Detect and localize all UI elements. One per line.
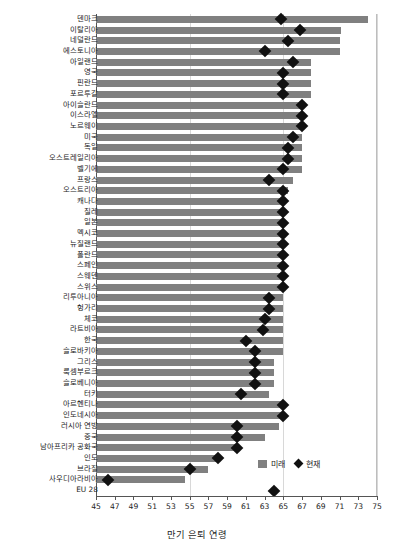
- chart-row: [96, 303, 377, 314]
- category-label: 체코: [84, 315, 98, 323]
- category-label: 아이슬란드: [63, 101, 98, 109]
- category-label: 그리스: [77, 358, 98, 366]
- chart-row: [96, 292, 377, 303]
- legend: 미래 현재: [258, 458, 320, 469]
- chart-row: [96, 325, 377, 336]
- category-label: 영국: [84, 68, 98, 76]
- bar-future: [96, 134, 302, 141]
- chart-row: [96, 378, 377, 389]
- category-label: 중국: [84, 433, 98, 441]
- chart-row: [96, 100, 377, 111]
- x-tick-label: 73: [348, 502, 368, 511]
- x-tick-label: 51: [142, 502, 162, 511]
- chart-row: [96, 346, 377, 357]
- chart-row: [96, 207, 377, 218]
- bar-future: [96, 102, 302, 109]
- chart-row: [96, 271, 377, 282]
- bar-future: [96, 166, 302, 173]
- category-label: 슬로바키아: [63, 347, 98, 355]
- x-tick-label: 69: [311, 502, 331, 511]
- bar-future: [96, 423, 279, 430]
- category-label: 핀란드: [77, 79, 98, 87]
- x-tick-label: 71: [330, 502, 350, 511]
- bar-future: [96, 455, 218, 462]
- category-label: 리투아니아: [63, 293, 98, 301]
- chart-row: [96, 78, 377, 89]
- x-tick: [115, 496, 116, 500]
- chart-row: [96, 282, 377, 293]
- x-tick-label: 57: [198, 502, 218, 511]
- category-label: 인도: [84, 454, 98, 462]
- category-label: 라트비아: [70, 325, 98, 333]
- bar-future: [96, 198, 283, 205]
- chart-row: [96, 260, 377, 271]
- chart-row: [96, 68, 377, 79]
- bar-future: [96, 16, 368, 23]
- bar-future: [96, 144, 302, 151]
- chart-row: [96, 110, 377, 121]
- category-label: 스페인: [77, 261, 98, 269]
- x-tick: [246, 496, 247, 500]
- bar-future: [96, 219, 283, 226]
- x-tick: [283, 496, 284, 500]
- bar-future: [96, 59, 311, 66]
- x-tick: [358, 496, 359, 500]
- category-label: 캐나다: [77, 197, 98, 205]
- category-label: 오스트리아: [63, 186, 98, 194]
- x-tick: [265, 496, 266, 500]
- x-tick-label: 45: [86, 502, 106, 511]
- x-tick: [208, 496, 209, 500]
- x-tick-label: 59: [217, 502, 237, 511]
- diamond-swatch-icon: [294, 459, 304, 469]
- x-tick-label: 67: [292, 502, 312, 511]
- category-label: 아르헨티나: [63, 400, 98, 408]
- chart-row: [96, 400, 377, 411]
- category-label: EU 28: [76, 486, 98, 494]
- category-label: 멕시코: [77, 229, 98, 237]
- bar-future: [96, 241, 283, 248]
- category-label: 아일랜드: [70, 58, 98, 66]
- chart-row: [96, 453, 377, 464]
- bar-future: [96, 369, 274, 376]
- legend-entry-current: 현재: [295, 458, 320, 469]
- chart-row: [96, 35, 377, 46]
- bar-future: [96, 251, 283, 258]
- x-tick: [321, 496, 322, 500]
- bar-future: [96, 401, 283, 408]
- chart-row: [96, 239, 377, 250]
- category-label: 남아프리카 공화국: [40, 443, 98, 451]
- x-tick: [190, 496, 191, 500]
- category-label: 터키: [84, 390, 98, 398]
- category-label: 에스토니아: [63, 47, 98, 55]
- x-tick: [302, 496, 303, 500]
- chart-row: [96, 228, 377, 239]
- bar-future: [96, 155, 302, 162]
- chart-row: [96, 164, 377, 175]
- bar-future: [96, 230, 283, 237]
- chart-row: [96, 464, 377, 475]
- category-label: 룩셈부르크: [63, 368, 98, 376]
- chart-row: [96, 314, 377, 325]
- chart-row: [96, 25, 377, 36]
- x-tick-label: 75: [367, 502, 387, 511]
- chart-row: [96, 185, 377, 196]
- category-label: 한국: [84, 336, 98, 344]
- category-label: 스웨덴: [77, 272, 98, 280]
- x-tick: [133, 496, 134, 500]
- category-label: 벨기에: [77, 165, 98, 173]
- bar-future: [96, 262, 283, 269]
- chart-row: [96, 14, 377, 25]
- category-label: 이스라엘: [70, 111, 98, 119]
- chart-row: [96, 175, 377, 186]
- chart-row: [96, 196, 377, 207]
- legend-label-current: 현재: [306, 458, 320, 469]
- category-label: 스위스: [77, 283, 98, 291]
- category-label: 브라질: [77, 465, 98, 473]
- chart-row: [96, 442, 377, 453]
- chart-row: [96, 485, 377, 496]
- bar-future: [96, 48, 340, 55]
- bar-future: [96, 412, 283, 419]
- x-tick-label: 65: [273, 502, 293, 511]
- chart-row: [96, 357, 377, 368]
- category-label: 노르웨이: [70, 122, 98, 130]
